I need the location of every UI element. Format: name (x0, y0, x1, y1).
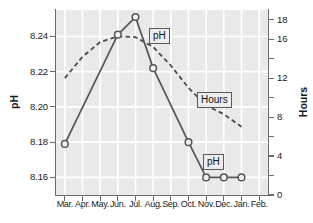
y-axis-right-line (268, 9, 269, 196)
y-axis-right-tick-label: 4 (277, 150, 282, 161)
y-axis-right-tick (269, 117, 274, 118)
x-axis-line (55, 195, 269, 196)
y-axis-left-line (55, 9, 56, 196)
y-axis-right-tick (269, 136, 274, 137)
y-axis-right-tick (269, 175, 274, 176)
ph-hours-line-chart: pH Hours pH 8.168.188.208.228.24 0481216… (0, 0, 313, 223)
y-axis-right-tick-label: 0 (277, 189, 282, 200)
y-axis-left-tick (50, 106, 55, 107)
y-axis-left-tick-label: 8.16 (4, 171, 48, 182)
y-axis-left-tick-label: 8.22 (4, 66, 48, 77)
x-axis-tick-label: Feb. (245, 199, 273, 209)
plot-area: pH Hours pH (56, 10, 268, 195)
annotation-ph-lower: pH (203, 154, 224, 170)
y-axis-left-tick (50, 71, 55, 72)
y-axis-right-tick (269, 78, 274, 79)
y-axis-right-tick (269, 58, 274, 59)
y-axis-left-tick (50, 142, 55, 143)
y-axis-left-title: pH (8, 82, 20, 122)
y-axis-left-tick-label: 8.18 (4, 136, 48, 147)
y-axis-right-tick-label: 16 (277, 33, 287, 44)
y-axis-right-tick-label: 18 (277, 14, 287, 25)
annotation-hours: Hours (197, 92, 232, 108)
y-axis-right-tick-label: 12 (277, 72, 287, 83)
y-axis-right-tick (269, 39, 274, 40)
y-axis-left-tick (50, 177, 55, 178)
y-axis-left-tick (50, 36, 55, 37)
y-axis-right-tick-label: 8 (277, 111, 282, 122)
y-axis-right-tick (269, 19, 274, 20)
y-axis-right-tick (269, 194, 274, 195)
y-axis-right-tick (269, 97, 274, 98)
y-axis-right-title: Hours (297, 82, 309, 122)
y-axis-right-tick (269, 155, 274, 156)
annotation-ph-upper: pH (149, 28, 170, 44)
y-axis-left-tick-label: 8.24 (4, 30, 48, 41)
